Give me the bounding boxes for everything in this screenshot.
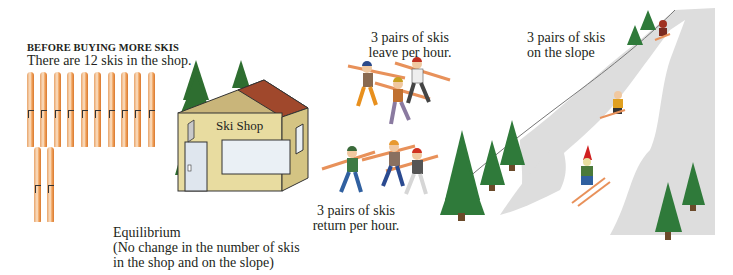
shop-sign: Ski Shop <box>216 118 263 133</box>
return-label: 3 pairs of skis return per hour. <box>300 203 412 233</box>
slope-line-1: 3 pairs of skis <box>527 30 605 45</box>
ski-icon <box>108 72 115 147</box>
ski-icon <box>54 72 61 147</box>
slope-label: 3 pairs of skis on the slope <box>527 30 605 60</box>
return-line-1: 3 pairs of skis <box>300 203 412 218</box>
ski-icon <box>40 72 47 147</box>
ski-icon <box>27 72 34 147</box>
ski-icon <box>94 72 101 147</box>
ski-icon <box>67 72 74 147</box>
ski-icon <box>47 147 54 222</box>
ski-icon <box>121 72 128 147</box>
skiers-returning <box>322 140 438 194</box>
return-line-2: return per hour. <box>300 218 412 233</box>
leave-line-2: leave per hour. <box>350 45 470 60</box>
equilibrium-label: Equilibrium (No change in the number of … <box>113 225 300 270</box>
ski-icon <box>148 72 155 147</box>
leave-line-1: 3 pairs of skis <box>350 30 470 45</box>
equilibrium-line-2: (No change in the number of skis <box>113 240 300 255</box>
equilibrium-line-3: in the shop and on the slope) <box>113 255 300 270</box>
leave-label: 3 pairs of skis leave per hour. <box>350 30 470 60</box>
skiers-leaving <box>348 57 450 124</box>
equilibrium-line-1: Equilibrium <box>113 225 300 240</box>
before-subtitle: There are 12 skis in the shop. <box>27 53 191 68</box>
ski-icon <box>34 147 41 222</box>
slope-line-2: on the slope <box>527 45 605 60</box>
ski-icon <box>81 72 88 147</box>
ski-icon <box>134 72 141 147</box>
